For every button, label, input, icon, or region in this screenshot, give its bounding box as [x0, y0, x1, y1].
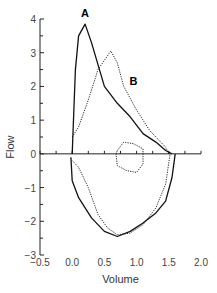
x-tick-label: −0.5 [30, 257, 50, 268]
y-tick-label: −1 [25, 183, 37, 194]
series-b-inner_loop [116, 142, 143, 172]
annotation-b: B [129, 75, 137, 87]
x-tick-label: 0.5 [97, 257, 111, 268]
series-b-expiratory [72, 51, 169, 154]
series-a-inspiratory [71, 154, 175, 237]
x-axis-label: Volume [102, 273, 139, 285]
y-tick-label: 1 [30, 115, 36, 126]
flow-volume-chart: 43210−1−2−3−0.50.00.51.01.52.0VolumeFlow… [0, 0, 217, 293]
y-tick-label: −2 [25, 216, 37, 227]
series-a-expiratory [72, 24, 172, 154]
y-tick-label: 0 [30, 149, 36, 160]
y-tick-label: 2 [30, 81, 36, 92]
y-axis-label: Flow [4, 135, 16, 158]
y-tick-label: 3 [30, 48, 36, 59]
y-tick-label: 4 [30, 14, 36, 25]
x-tick-label: 1.0 [130, 257, 144, 268]
x-tick-label: 2.0 [194, 257, 208, 268]
annotation-a: A [81, 7, 89, 19]
x-tick-label: 0.0 [65, 257, 79, 268]
series-b-inspiratory [72, 154, 170, 235]
x-tick-label: 1.5 [162, 257, 176, 268]
